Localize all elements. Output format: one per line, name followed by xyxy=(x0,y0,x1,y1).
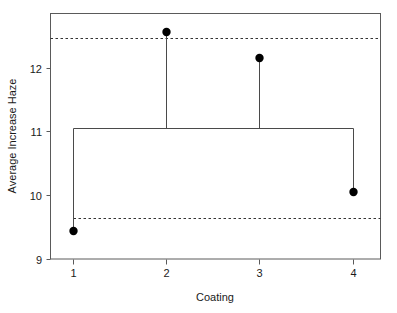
data-point-1[interactable] xyxy=(69,227,77,235)
data-point-markers xyxy=(69,28,357,235)
x-axis-ticks xyxy=(74,260,354,265)
x-tick-label-0: 1 xyxy=(70,267,76,279)
x-axis-title: Coating xyxy=(196,291,234,303)
y-tick-label-1: 10 xyxy=(30,190,42,202)
y-axis-title: Average Increase Haze xyxy=(6,79,18,194)
x-tick-label-2: 3 xyxy=(256,267,262,279)
x-tick-label-3: 4 xyxy=(350,267,356,279)
x-axis-tick-labels: 1 2 3 4 xyxy=(70,267,356,279)
main-effects-plot: 9 10 11 12 1 2 3 4 xyxy=(0,0,397,313)
stem-lines xyxy=(74,32,354,231)
x-tick-label-1: 2 xyxy=(163,267,169,279)
chart-figure: 9 10 11 12 1 2 3 4 xyxy=(0,0,397,313)
y-tick-label-3: 12 xyxy=(30,63,42,75)
y-tick-label-2: 11 xyxy=(31,126,42,138)
plot-frame xyxy=(51,14,381,260)
y-axis-tick-labels: 9 10 11 12 xyxy=(30,63,42,266)
data-point-3[interactable] xyxy=(255,54,263,62)
y-axis-ticks xyxy=(47,69,51,260)
y-tick-label-0: 9 xyxy=(36,254,42,266)
data-point-4[interactable] xyxy=(349,188,357,196)
data-point-2[interactable] xyxy=(162,28,170,36)
